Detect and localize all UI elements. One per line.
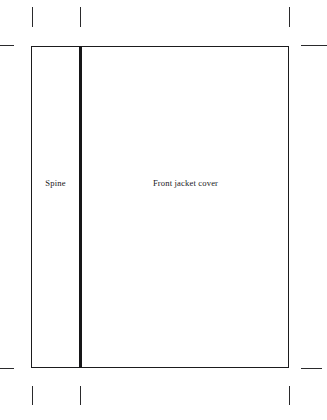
front-jacket-cover-panel-label: Front jacket cover xyxy=(82,178,289,188)
crop-mark-left-bottom xyxy=(0,368,14,369)
crop-mark-top-spine xyxy=(80,7,81,27)
crop-mark-bottom-spine xyxy=(80,386,81,405)
jacket-layout-diagram: Spine Front jacket cover xyxy=(0,0,327,420)
spine-fold-line xyxy=(79,46,82,368)
crop-mark-bottom-right xyxy=(289,386,290,405)
jacket-outline xyxy=(31,46,289,368)
crop-mark-bottom-left xyxy=(32,386,33,405)
crop-mark-top-left xyxy=(32,7,33,27)
crop-mark-left-top xyxy=(0,45,14,46)
crop-mark-top-right xyxy=(289,7,290,27)
crop-mark-right-top xyxy=(301,45,327,46)
crop-mark-right-bottom xyxy=(301,368,322,369)
spine-panel-label: Spine xyxy=(31,178,80,188)
